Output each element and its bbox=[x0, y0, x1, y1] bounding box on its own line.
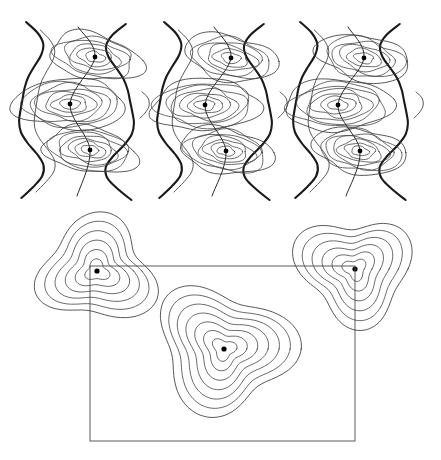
peak-3a-center-dot bbox=[362, 56, 367, 61]
cluster-center-ring-7 bbox=[160, 286, 301, 418]
peak-1b-ring-7 bbox=[10, 78, 125, 130]
bounding-rectangle bbox=[90, 266, 355, 441]
peak-1c-ring-5 bbox=[59, 132, 127, 167]
peak-2c-center-dot bbox=[224, 149, 229, 154]
contour-panel-2 bbox=[149, 22, 287, 200]
cluster-center-ring-3 bbox=[195, 322, 258, 380]
peak-1a-center-dot bbox=[93, 55, 98, 60]
cluster-right-ring-5 bbox=[302, 230, 402, 320]
peak-1c-center-dot bbox=[88, 148, 93, 153]
cluster-right-group bbox=[293, 223, 413, 330]
peak-2c-rings bbox=[181, 125, 276, 175]
cluster-center-center-dot bbox=[221, 346, 226, 351]
cluster-center-ring-5 bbox=[177, 304, 279, 399]
peak-2a-center-dot bbox=[229, 56, 234, 61]
top-section-group bbox=[10, 22, 423, 200]
peak-2b-center-dot bbox=[203, 103, 208, 108]
peak-3c-center-dot bbox=[358, 149, 363, 154]
cluster-left-group bbox=[34, 212, 158, 318]
panel-3-notch-arc bbox=[414, 92, 423, 118]
cluster-right-ring-2 bbox=[332, 252, 374, 291]
peak-1b-center-dot bbox=[68, 102, 73, 107]
contour-figure-root bbox=[0, 0, 441, 460]
cluster-left-ring-6 bbox=[34, 212, 158, 318]
contour-panel-1 bbox=[10, 22, 149, 200]
panel-3-left-boundary-contour bbox=[293, 22, 318, 198]
peak-1a-rings bbox=[50, 29, 147, 79]
cluster-right-ring-3 bbox=[322, 245, 383, 301]
peak-1b-rings bbox=[10, 78, 125, 130]
peak-2c-ring-6 bbox=[182, 129, 263, 173]
cluster-left-center-dot bbox=[94, 268, 99, 273]
cluster-right-ring-4 bbox=[312, 237, 393, 310]
contour-figure-canvas bbox=[0, 0, 441, 460]
contour-panel-3 bbox=[284, 22, 423, 200]
panel-2-notch-arc bbox=[278, 92, 287, 118]
cluster-center-group bbox=[160, 286, 301, 418]
panel-1-notch-arc bbox=[140, 92, 149, 118]
peak-3b-rings bbox=[284, 79, 396, 133]
panel-2-right-boundary-contour bbox=[243, 24, 272, 200]
peak-3b-center-dot bbox=[336, 103, 341, 108]
bottom-section-group bbox=[34, 212, 412, 441]
